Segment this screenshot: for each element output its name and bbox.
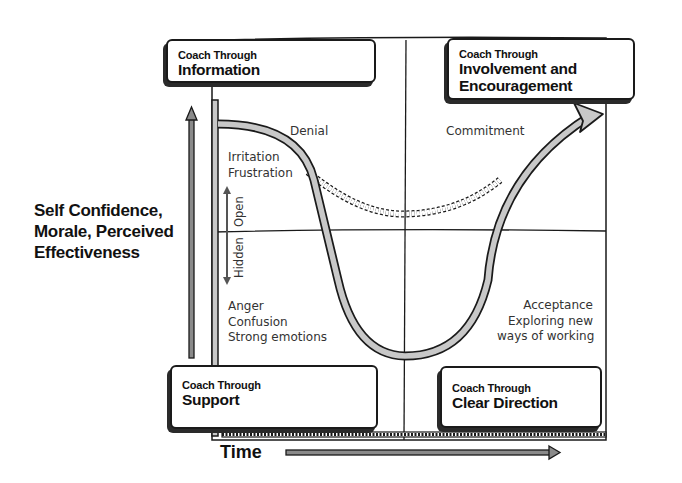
- time-arrow-icon: [286, 446, 560, 459]
- horizontal-divider: [212, 230, 606, 232]
- box-title: Involvement and Encouragement: [459, 60, 623, 94]
- box-coach-support: Coach Through Support: [170, 365, 378, 429]
- box-title: Clear Direction: [452, 394, 590, 411]
- label-commitment: Commitment: [446, 124, 525, 140]
- box-coach-involvement: Coach Through Involvement and Encouragem…: [447, 38, 635, 100]
- dotted-expected-curve: [308, 172, 500, 214]
- y-axis-label: Self Confidence, Morale, Perceived Effec…: [34, 200, 173, 263]
- change-curve-diagram: Coach Through Information Coach Through …: [0, 0, 682, 483]
- box-subtitle: Coach Through: [182, 379, 366, 391]
- box-subtitle: Coach Through: [452, 382, 590, 394]
- box-title: Support: [182, 391, 366, 408]
- open-hidden-arrow-icon: [223, 186, 231, 285]
- label-anger-confusion: Anger Confusion Strong emotions: [228, 299, 327, 346]
- box-subtitle: Coach Through: [459, 48, 623, 60]
- label-acceptance: Acceptance Exploring new ways of working: [497, 298, 593, 345]
- vertical-divider: [404, 40, 406, 440]
- label-open: Open: [232, 196, 246, 227]
- box-coach-information: Coach Through Information: [166, 39, 376, 83]
- label-irritation-frustration: Irritation Frustration: [228, 150, 293, 181]
- box-subtitle: Coach Through: [178, 49, 364, 61]
- box-coach-clear-direction: Coach Through Clear Direction: [440, 366, 602, 428]
- label-hidden: Hidden: [232, 237, 246, 278]
- box-title: Information: [178, 61, 364, 78]
- confidence-arrow-icon: [186, 107, 197, 358]
- x-axis-label: Time: [220, 442, 262, 463]
- label-denial: Denial: [290, 124, 328, 140]
